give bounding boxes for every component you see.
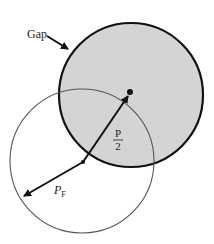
small-dot xyxy=(81,160,85,164)
gap-arrow xyxy=(47,36,68,49)
gap-diagram: Gap P 2 PF xyxy=(0,0,214,244)
shaded-circle xyxy=(59,23,203,167)
pf-label: PF xyxy=(53,183,66,199)
center-dot xyxy=(127,89,133,95)
half-p-numerator: P xyxy=(115,127,121,139)
half-p-denominator: 2 xyxy=(115,140,121,152)
gap-label: Gap xyxy=(27,27,47,41)
pf-label-sub: F xyxy=(61,190,66,199)
